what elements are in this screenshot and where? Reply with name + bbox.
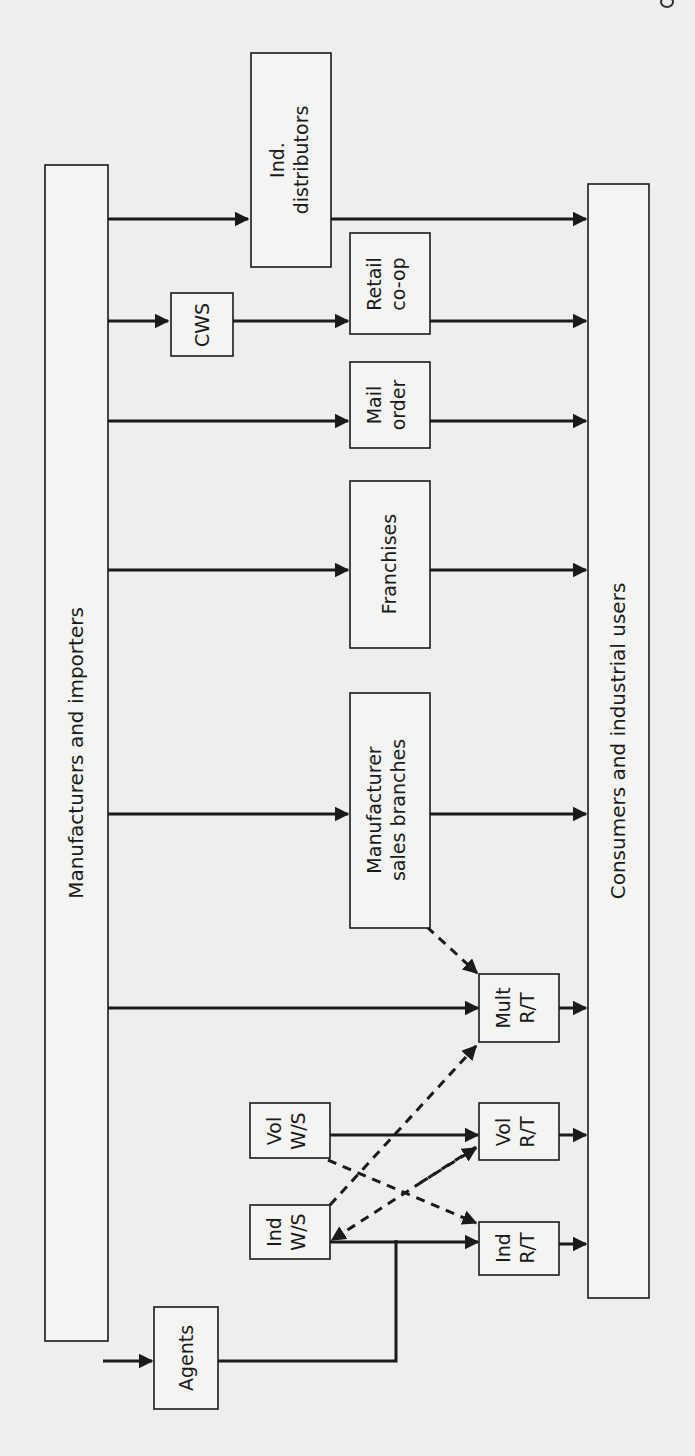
node-franchises-label: Franchises — [378, 514, 400, 614]
node-vol-rt: Vol R/T — [479, 1103, 559, 1160]
node-mail-order-line2: order — [387, 379, 409, 430]
dashed-connectors — [328, 927, 477, 1240]
node-cws: CWS — [171, 293, 233, 356]
node-ind-distributors: Ind. distributors — [251, 53, 331, 267]
node-manufacturers-label: Manufacturers and importers — [64, 607, 88, 899]
node-mult-rt-line2: R/T — [516, 992, 538, 1024]
node-mfr-sales-branches: Manufacturer sales branches — [350, 693, 430, 928]
node-ind-distributors-line1: Ind. — [266, 142, 288, 178]
node-agents: Agents — [154, 1307, 218, 1409]
node-consumers: Consumers and industrial users — [588, 184, 649, 1298]
node-franchises: Franchises — [350, 481, 430, 648]
node-mail-order: Mail order — [350, 362, 430, 448]
distribution-channel-diagram: Manufacturers and importers Consumers an… — [0, 0, 695, 1456]
node-mfr-sales-branches-line1: Manufacturer — [363, 746, 385, 873]
node-vol-rt-line2: R/T — [516, 1116, 538, 1148]
node-vol-ws-line2: W/S — [287, 1112, 309, 1149]
node-consumers-label: Consumers and industrial users — [606, 583, 630, 900]
node-retail-coop-line2: co-op — [387, 257, 409, 310]
node-ind-ws-line2: W/S — [287, 1213, 309, 1250]
node-retail-coop-line1: Retail — [363, 257, 385, 311]
node-retail-coop: Retail co-op — [350, 233, 430, 334]
node-mult-rt-line1: Mult — [492, 987, 514, 1028]
node-mail-order-line1: Mail — [363, 386, 385, 425]
node-agents-label: Agents — [175, 1325, 197, 1391]
node-ind-rt-line2: R/T — [516, 1232, 538, 1264]
node-vol-rt-line1: Vol — [492, 1118, 514, 1146]
node-ind-rt-line1: Ind — [492, 1233, 514, 1263]
node-ind-rt: Ind R/T — [479, 1222, 559, 1275]
node-ind-ws: Ind W/S — [250, 1205, 330, 1259]
node-mult-rt: Mult R/T — [479, 974, 559, 1042]
node-ind-distributors-line2: distributors — [290, 106, 312, 215]
node-manufacturers: Manufacturers and importers — [45, 165, 108, 1341]
node-vol-ws-line1: Vol — [263, 1117, 285, 1145]
node-mfr-sales-branches-line2: sales branches — [387, 739, 409, 881]
node-vol-ws: Vol W/S — [250, 1103, 330, 1158]
node-cws-label: CWS — [191, 303, 213, 347]
node-ind-ws-line1: Ind — [263, 1217, 285, 1247]
